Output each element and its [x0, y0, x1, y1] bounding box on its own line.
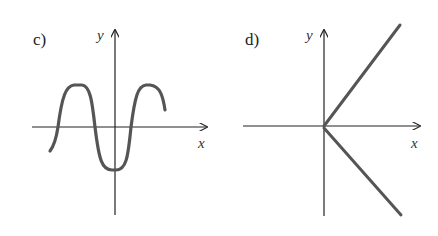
panel-c-label: c) [33, 30, 46, 49]
panel-d: d) y x [243, 25, 420, 216]
panel-c: c) y x [32, 27, 207, 215]
panel-d-y-label: y [304, 27, 313, 43]
panel-d-label: d) [245, 30, 259, 49]
panel-d-upper-ray [324, 25, 400, 126]
panel-c-y-label: y [95, 27, 104, 43]
graphs-figure: c) y x d) y x [0, 0, 438, 236]
panel-d-lower-ray [324, 128, 401, 215]
panel-c-x-label: x [197, 135, 205, 151]
panel-d-x-label: x [410, 135, 418, 151]
